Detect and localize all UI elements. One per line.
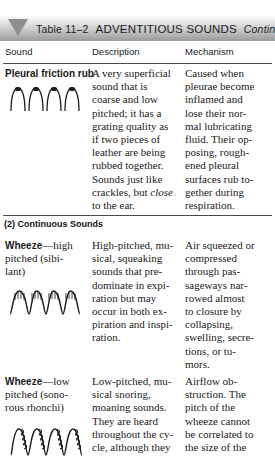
mechanism-line: mors. bbox=[185, 358, 273, 371]
description-line: occur in both ex- bbox=[92, 305, 180, 318]
mechanism-line: Air squeezed or bbox=[185, 239, 273, 252]
row-description-cell: High-pitched, mu- sical, squeaking sound… bbox=[92, 239, 180, 345]
mechanism-line: ened pleural bbox=[185, 159, 273, 172]
row-description-cell: Low-pitched, mu- sical snoring, moaning … bbox=[92, 375, 180, 454]
mechanism-line: lose their nor- bbox=[185, 107, 273, 120]
mechanism-line: swelling, secre- bbox=[185, 331, 273, 344]
description-line-text: crackles, but bbox=[92, 186, 150, 198]
sound-term-suffix: —low bbox=[42, 375, 70, 387]
section-label-continuous-sounds: (2) Continuous Sounds bbox=[4, 219, 103, 229]
mechanism-line: collapsing, bbox=[185, 318, 273, 331]
description-line: Sounds just like bbox=[92, 173, 180, 186]
description-line: grating quality as bbox=[92, 120, 180, 133]
table-page: Table 11–2 ADVENTITIOUS SOUNDS Continued… bbox=[0, 0, 275, 456]
continued-label: Continued bbox=[244, 23, 275, 35]
mechanism-line: sageways nar- bbox=[185, 279, 273, 292]
sound-line: lant) bbox=[5, 265, 88, 278]
sound-term-suffix: —high bbox=[42, 239, 73, 251]
description-line: ration. bbox=[92, 331, 180, 344]
sound-line: rous rhonchi) bbox=[5, 401, 88, 414]
row-mechanism-cell: Air squeezed or compressed through pas- … bbox=[185, 239, 273, 371]
description-line: if two pieces of bbox=[92, 133, 180, 146]
description-line: sical, squeaking bbox=[92, 252, 180, 265]
mechanism-line: rowed almost bbox=[185, 292, 273, 305]
row-mechanism-cell: Airflow ob- struction. The pitch of the … bbox=[185, 375, 273, 454]
row-mechanism-cell: Caused when pleurae become inflamed and … bbox=[185, 67, 273, 212]
mechanism-line: to closure by bbox=[185, 305, 273, 318]
header-divider bbox=[3, 63, 272, 64]
description-line: sounds that pre- bbox=[92, 265, 180, 278]
row-sound-cell: Pleural friction rub bbox=[5, 67, 88, 80]
description-line: piration and inspi- bbox=[92, 318, 180, 331]
sound-term: Pleural friction rub bbox=[5, 68, 94, 79]
triangle-down-icon bbox=[8, 19, 28, 36]
description-line: to the ear. bbox=[92, 199, 180, 212]
description-line: crackles, but close bbox=[92, 186, 180, 199]
description-line: throughout the cy- bbox=[92, 428, 180, 441]
mechanism-line: mal lubricating bbox=[185, 120, 273, 133]
mechanism-line: through pas- bbox=[185, 265, 273, 278]
description-italic-word: close bbox=[150, 186, 173, 198]
description-line: pitched; it has a bbox=[92, 107, 180, 120]
description-line: A very superficial bbox=[92, 67, 180, 80]
column-header-row: Sound Description Mechanism bbox=[0, 46, 275, 64]
description-line: moaning sounds. bbox=[92, 401, 180, 414]
description-line: sical snoring, bbox=[92, 388, 180, 401]
description-line: They are heard bbox=[92, 415, 180, 428]
sound-term: Wheeze bbox=[5, 240, 42, 251]
mechanism-line: pleurae become bbox=[185, 80, 273, 93]
banner-text: Table 11–2 ADVENTITIOUS SOUNDS Continued bbox=[36, 23, 275, 35]
mechanism-line: respiration. bbox=[185, 199, 273, 212]
section-divider bbox=[3, 215, 272, 216]
mechanism-line: struction. The bbox=[185, 388, 273, 401]
column-header-description: Description bbox=[92, 46, 140, 57]
description-line: cle, although they bbox=[92, 441, 180, 454]
table-header-banner: Table 11–2 ADVENTITIOUS SOUNDS Continued bbox=[0, 16, 275, 41]
mechanism-line: pitch of the bbox=[185, 401, 273, 414]
mechanism-line: the size of the bbox=[185, 441, 273, 454]
waveform-curly bbox=[8, 423, 88, 456]
mechanism-line: compressed bbox=[185, 252, 273, 265]
mechanism-line: Caused when bbox=[185, 67, 273, 80]
column-header-mechanism: Mechanism bbox=[185, 46, 234, 57]
sound-line: pitched (sibi- bbox=[5, 252, 88, 265]
mechanism-line: wheeze cannot bbox=[185, 415, 273, 428]
mechanism-line: fluid. Their op- bbox=[185, 133, 273, 146]
sound-term: Wheeze bbox=[5, 376, 42, 387]
waveform-sine-hatched bbox=[8, 287, 88, 317]
description-line: ration but may bbox=[92, 292, 180, 305]
row-description-cell: A very superficial sound that is coarse … bbox=[92, 67, 180, 212]
mechanism-line: Airflow ob- bbox=[185, 375, 273, 388]
mechanism-line: inflamed and bbox=[185, 93, 273, 106]
description-line: High-pitched, mu- bbox=[92, 239, 180, 252]
waveform-arches bbox=[8, 85, 86, 111]
mechanism-line: gether during bbox=[185, 186, 273, 199]
description-line: coarse and low bbox=[92, 93, 180, 106]
mechanism-line: be correlated to bbox=[185, 428, 273, 441]
description-line: sound that is bbox=[92, 80, 180, 93]
mechanism-line: surfaces rub to- bbox=[185, 173, 273, 186]
sound-line: pitched (sono- bbox=[5, 388, 88, 401]
row-sound-cell: Wheeze—low pitched (sono- rous rhonchi) bbox=[5, 375, 88, 415]
mechanism-line: tions, or tu- bbox=[185, 345, 273, 358]
description-line: rubbed together. bbox=[92, 159, 180, 172]
description-line: leather are being bbox=[92, 146, 180, 159]
table-number-label: Table 11–2 bbox=[36, 23, 89, 35]
column-header-sound: Sound bbox=[5, 46, 32, 57]
table-title: ADVENTITIOUS SOUNDS bbox=[96, 23, 237, 35]
description-line: dominate in expi- bbox=[92, 279, 180, 292]
mechanism-line: posing, rough- bbox=[185, 146, 273, 159]
description-line: Low-pitched, mu- bbox=[92, 375, 180, 388]
row-sound-cell: Wheeze—high pitched (sibi- lant) bbox=[5, 239, 88, 279]
